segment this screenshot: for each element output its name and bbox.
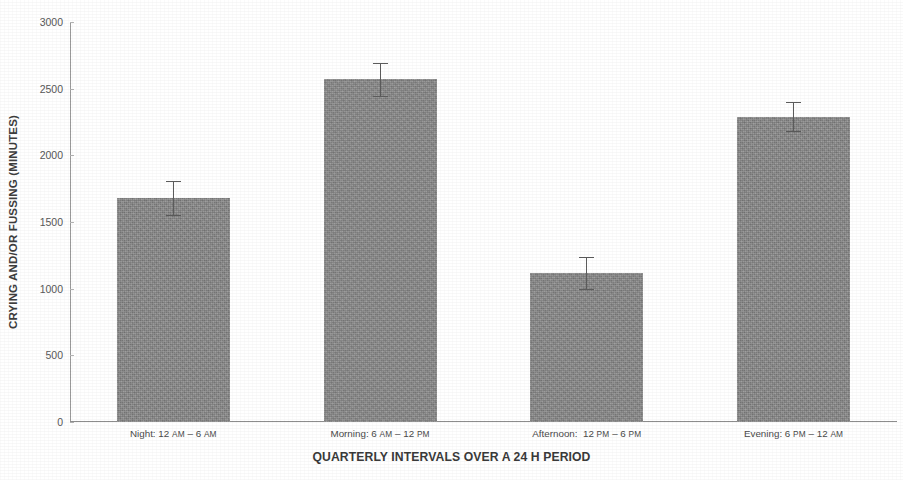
error-bar-cap-lower [166, 215, 181, 216]
error-bar-cap-upper [373, 63, 388, 64]
bar-group[interactable] [737, 22, 850, 422]
x-category-label: Afternoon: 12 PM – 6 PM [477, 428, 697, 439]
plot-area: 050010001500200025003000 [70, 22, 897, 422]
bar-rect[interactable] [737, 117, 850, 422]
x-axis-title: QUARTERLY INTERVALS OVER A 24 H PERIOD [0, 450, 903, 464]
bar-rect[interactable] [530, 273, 643, 422]
y-tick-label: 1000 [40, 283, 63, 295]
y-tick-label: 1500 [40, 216, 63, 228]
error-bar-cap-upper [579, 257, 594, 258]
y-axis-title: CRYING AND/OR FUSSING (MINUTES) [2, 7, 24, 437]
error-bar-line [173, 181, 174, 214]
x-category-label: Night: 12 AM – 6 AM [63, 428, 283, 439]
error-bar-cap-lower [373, 96, 388, 97]
bar-chart-figure: CRYING AND/OR FUSSING (MINUTES) 05001000… [0, 0, 903, 480]
bar-rect[interactable] [324, 79, 437, 422]
y-tick-label: 2000 [40, 149, 63, 161]
bar-group[interactable] [324, 22, 437, 422]
bar-group[interactable] [117, 22, 230, 422]
bar-group[interactable] [530, 22, 643, 422]
error-bar-cap-upper [786, 102, 801, 103]
bars-layer [70, 22, 897, 422]
error-bar-cap-upper [166, 181, 181, 182]
error-bar-line [380, 63, 381, 96]
y-tick-label: 2500 [40, 83, 63, 95]
y-tick-label: 500 [45, 349, 63, 361]
error-bar-line [586, 257, 587, 289]
error-bar-cap-lower [786, 131, 801, 132]
bar-rect[interactable] [117, 198, 230, 422]
x-category-label: Evening: 6 PM – 12 AM [684, 428, 903, 439]
error-bar-cap-lower [579, 289, 594, 290]
x-category-label: Morning: 6 AM – 12 PM [270, 428, 490, 439]
y-tick-mark [70, 422, 74, 423]
y-tick-label: 3000 [40, 16, 63, 28]
error-bar-line [793, 102, 794, 131]
y-tick-label: 0 [57, 416, 63, 428]
